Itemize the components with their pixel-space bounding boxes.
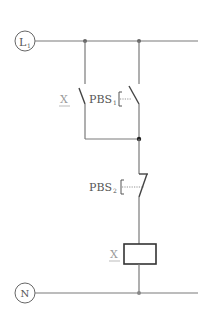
- pbs1-label: PBS: [89, 93, 112, 106]
- terminal-n: N: [15, 283, 35, 303]
- pbs1-subscript: 1: [113, 99, 117, 106]
- pbs2-subscript: 2: [113, 187, 117, 194]
- circuit-diagram: L 1 X PBS 1 PBS 2 X N: [0, 0, 213, 316]
- junction-dot: [137, 291, 141, 295]
- pbs1-contact: [119, 41, 139, 139]
- terminal-l1-label: L: [19, 36, 27, 49]
- terminal-n-label: N: [21, 288, 30, 299]
- pbs2-label: PBS: [89, 181, 112, 194]
- x-holding-contact: [79, 41, 85, 139]
- terminal-l1: L 1: [15, 31, 35, 51]
- pbs2-contact: [121, 139, 148, 244]
- x-contact-label: X: [60, 93, 68, 106]
- x-coil-label: X: [110, 248, 118, 261]
- x-relay-coil: [124, 244, 156, 264]
- terminal-l1-subscript: 1: [27, 42, 31, 49]
